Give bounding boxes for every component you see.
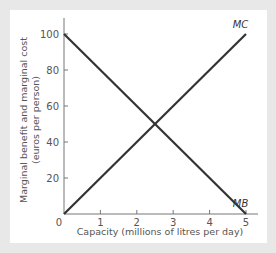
y-tick-label: 80 <box>46 65 59 76</box>
x-tick-label: 5 <box>243 217 249 228</box>
series-lines <box>64 34 246 214</box>
chart-svg: 20406080100 012345 MCMB Capacity (millio… <box>0 0 276 253</box>
y-tick-label: 20 <box>46 173 59 184</box>
y-tick-label: 60 <box>46 101 59 112</box>
x-axis-title: Capacity (millions of litres per day) <box>77 226 244 237</box>
curve-label-mb: MB <box>233 198 249 209</box>
x-tick-label: 0 <box>56 217 62 228</box>
y-tick-label: 100 <box>40 29 59 40</box>
curve-labels: MCMB <box>233 19 249 208</box>
y-axis-title-line2: (euros per person) <box>30 76 41 164</box>
curve-label-mc: MC <box>233 19 249 30</box>
y-axis-title-line1: Marginal benefit and marginal cost <box>18 37 29 203</box>
y-tick-label: 40 <box>46 137 59 148</box>
